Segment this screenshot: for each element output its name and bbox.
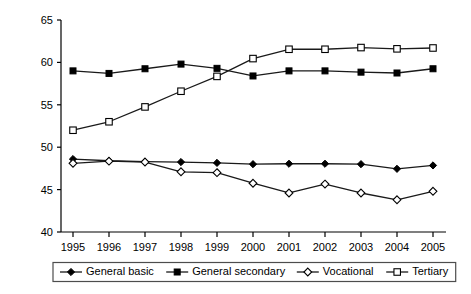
x-tick-label: 2005 bbox=[421, 241, 445, 253]
x-tick-label: 1999 bbox=[205, 241, 229, 253]
marker-open-square bbox=[394, 46, 401, 53]
line-chart: 4045505560651995199619971998199920002001… bbox=[0, 0, 471, 294]
marker-open-diamond bbox=[213, 169, 221, 177]
series-general-secondary bbox=[70, 61, 436, 79]
legend-label: General secondary bbox=[192, 265, 285, 277]
marker-filled-square bbox=[178, 61, 184, 67]
marker-filled-square bbox=[70, 68, 76, 74]
marker-open-square bbox=[286, 46, 293, 53]
marker-filled-diamond bbox=[249, 161, 256, 168]
marker-filled-square bbox=[214, 65, 220, 71]
series-tertiary bbox=[70, 44, 437, 133]
marker-open-square bbox=[70, 127, 77, 133]
y-tick-label: 40 bbox=[41, 226, 53, 238]
x-tick-label: 2002 bbox=[313, 241, 337, 253]
marker-open-diamond bbox=[429, 187, 437, 195]
marker-open-diamond bbox=[141, 158, 149, 166]
x-tick-label: 2001 bbox=[277, 241, 301, 253]
marker-filled-diamond bbox=[213, 159, 220, 166]
marker-filled-diamond bbox=[321, 160, 328, 167]
marker-open-square bbox=[106, 119, 113, 126]
marker-filled-diamond bbox=[393, 165, 400, 172]
marker-open-square bbox=[394, 269, 401, 276]
y-tick-label: 50 bbox=[41, 141, 53, 153]
marker-open-diamond bbox=[357, 189, 365, 197]
marker-open-square bbox=[178, 88, 185, 95]
chart-canvas: 4045505560651995199619971998199920002001… bbox=[0, 0, 471, 294]
legend-label: Tertiary bbox=[412, 265, 449, 277]
marker-filled-diamond bbox=[177, 158, 184, 165]
x-tick-label: 2004 bbox=[385, 241, 409, 253]
marker-filled-square bbox=[142, 66, 148, 72]
marker-filled-square bbox=[322, 68, 328, 74]
marker-open-diamond bbox=[393, 196, 401, 204]
x-tick-label: 1995 bbox=[61, 241, 85, 253]
marker-open-diamond bbox=[249, 179, 257, 187]
marker-filled-square bbox=[106, 70, 112, 76]
y-tick-label: 45 bbox=[41, 184, 53, 196]
marker-filled-square bbox=[394, 70, 400, 76]
x-tick-label: 1996 bbox=[97, 241, 121, 253]
x-tick-label: 1998 bbox=[169, 241, 193, 253]
marker-filled-diamond bbox=[285, 160, 292, 167]
marker-open-diamond bbox=[285, 189, 293, 197]
marker-open-diamond bbox=[177, 168, 185, 176]
y-tick-label: 60 bbox=[41, 56, 53, 68]
y-tick-label: 65 bbox=[41, 14, 53, 26]
x-tick-label: 2000 bbox=[241, 241, 265, 253]
marker-filled-square bbox=[174, 269, 180, 275]
marker-open-diamond bbox=[321, 180, 329, 188]
legend-label: General basic bbox=[86, 265, 154, 277]
marker-open-square bbox=[322, 46, 329, 53]
y-tick-label: 55 bbox=[41, 99, 53, 111]
marker-open-square bbox=[430, 45, 437, 52]
x-tick-label: 2003 bbox=[349, 241, 373, 253]
marker-open-square bbox=[214, 73, 221, 80]
series-general-basic bbox=[69, 155, 436, 172]
marker-open-square bbox=[358, 44, 365, 51]
marker-open-square bbox=[250, 55, 257, 62]
marker-filled-square bbox=[250, 73, 256, 79]
marker-filled-square bbox=[358, 69, 364, 75]
x-tick-label: 1997 bbox=[133, 241, 157, 253]
marker-open-diamond bbox=[105, 157, 113, 165]
marker-filled-square bbox=[430, 66, 436, 72]
marker-open-square bbox=[142, 104, 149, 111]
marker-filled-square bbox=[286, 68, 292, 74]
legend-label: Vocational bbox=[323, 265, 374, 277]
marker-filled-diamond bbox=[357, 161, 364, 168]
marker-filled-diamond bbox=[429, 162, 436, 169]
